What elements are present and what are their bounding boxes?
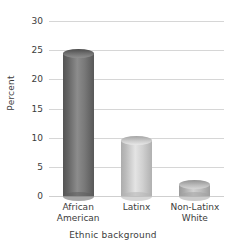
y-axis-tick-label: 25 <box>32 46 43 55</box>
gridline: 30 <box>49 21 224 22</box>
y-axis-tick-label: 30 <box>32 17 43 26</box>
x-axis-tick-label: Non-Latinx White <box>166 202 224 224</box>
bar-bottom-cap <box>179 192 210 201</box>
plot-area: 302520151050 <box>49 21 224 196</box>
bar-chart: Percent 302520151050 African AmericanLat… <box>0 0 226 248</box>
x-axis-tick-label: African American <box>49 202 107 224</box>
bar-bottom-cap <box>63 192 94 201</box>
y-axis-title: Percent <box>6 58 16 128</box>
y-axis-tick-label: 5 <box>37 162 43 171</box>
x-axis-tick-label: Latinx <box>107 202 165 213</box>
bar <box>63 53 94 196</box>
bar <box>121 141 152 196</box>
bar-body <box>63 53 94 196</box>
y-axis-tick-label: 20 <box>32 75 43 84</box>
x-axis-title: Ethnic background <box>0 230 226 240</box>
bar <box>179 185 210 196</box>
y-axis-tick-label: 10 <box>32 133 43 142</box>
bar-body <box>121 141 152 196</box>
y-axis-tick-label: 15 <box>32 104 43 113</box>
y-axis-tick-label: 0 <box>37 192 43 201</box>
bar-top-cap <box>63 49 94 58</box>
bar-bottom-cap <box>121 192 152 201</box>
